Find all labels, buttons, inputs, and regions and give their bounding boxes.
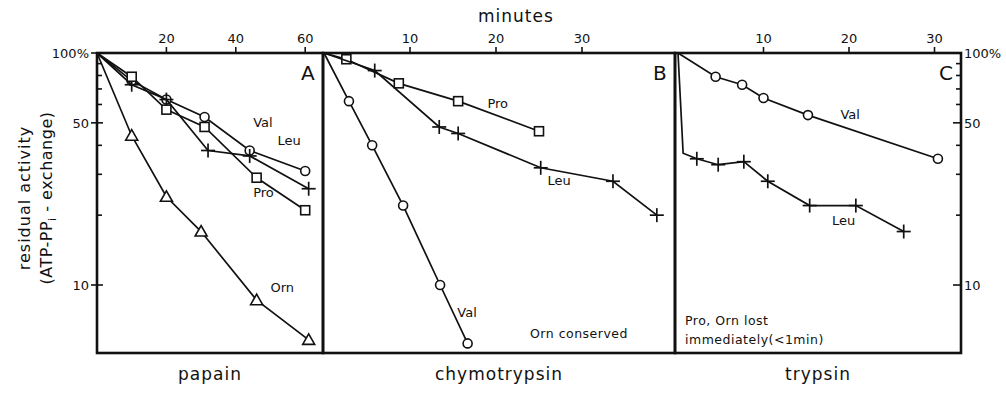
y-tick-label-right: 10 xyxy=(964,278,981,293)
data-point-triangle xyxy=(303,334,315,345)
data-point-circle xyxy=(759,93,768,102)
data-point-circle xyxy=(368,141,377,150)
chart-canvas: minutes residual activity (ATP-PPi - exc… xyxy=(0,0,1006,396)
x-tick-label: 20 xyxy=(841,31,858,46)
data-point-circle xyxy=(738,80,747,89)
y-axis-title-line1: residual activity xyxy=(15,126,34,270)
panel-c: C102030100%5010ValLeuPro, Orn lostimmedi… xyxy=(675,31,1001,384)
data-point-circle xyxy=(344,97,353,106)
panels: A204060100%5010ValLeuProOrnpapainB102030… xyxy=(52,31,1001,384)
panel-a: A204060100%5010ValLeuProOrnpapain xyxy=(52,31,323,384)
panel-letter: A xyxy=(301,61,315,85)
series-orn: Orn xyxy=(97,53,315,344)
panel-frame xyxy=(675,53,961,353)
series-label: Pro xyxy=(253,185,274,200)
fit-line xyxy=(97,53,305,171)
data-point-triangle xyxy=(126,130,138,141)
series-pro: Pro xyxy=(324,53,544,136)
series-label: Pro xyxy=(487,96,508,111)
panel-enzyme-title: papain xyxy=(178,364,242,384)
y-tick-label-right: 50 xyxy=(964,116,981,131)
data-point-square xyxy=(301,206,310,215)
data-point-square xyxy=(535,127,544,136)
x-tick-label: 20 xyxy=(158,31,175,46)
series-val: Val xyxy=(97,53,310,176)
y-axis-title-line2: (ATP-PPi - exchange) xyxy=(37,112,59,285)
series-label: Val xyxy=(253,115,272,130)
panel-frame xyxy=(97,53,323,353)
data-point-circle xyxy=(711,72,720,81)
x-tick-label: 30 xyxy=(574,31,591,46)
panel-enzyme-title: chymotrypsin xyxy=(435,364,563,384)
data-point-square xyxy=(454,97,463,106)
y-tick-label-right: 100% xyxy=(964,46,1001,61)
y-tick-label: 50 xyxy=(72,116,89,131)
series-label: Leu xyxy=(548,173,571,188)
y-axis-title: residual activity (ATP-PPi - exchange) xyxy=(15,112,59,285)
x-tick-label: 40 xyxy=(228,31,245,46)
series-label: Leu xyxy=(277,133,300,148)
data-point-circle xyxy=(463,339,472,348)
panel-enzyme-title: trypsin xyxy=(785,364,851,384)
panel-annotation: immediately(<1min) xyxy=(685,332,824,347)
data-point-square xyxy=(200,122,209,131)
data-point-circle xyxy=(301,167,310,176)
data-point-circle xyxy=(399,201,408,210)
fit-line xyxy=(678,53,938,159)
data-point-circle xyxy=(200,112,209,121)
data-point-circle xyxy=(803,111,812,120)
panel-letter: B xyxy=(653,61,667,85)
top-axis-title: minutes xyxy=(478,6,554,26)
x-tick-label: 20 xyxy=(488,31,505,46)
x-tick-label: 10 xyxy=(755,31,772,46)
data-point-square xyxy=(162,105,171,114)
series-leu: Leu xyxy=(324,53,664,222)
y-tick-label: 10 xyxy=(72,278,89,293)
data-point-circle xyxy=(933,154,942,163)
fit-line xyxy=(97,53,309,340)
fit-line xyxy=(324,53,468,343)
panel-annotation: Pro, Orn lost xyxy=(685,313,768,328)
panel-b: B102030ProLeuValOrn conservedchymotrypsi… xyxy=(323,31,675,384)
x-tick-label: 30 xyxy=(926,31,943,46)
data-point-triangle xyxy=(160,191,172,202)
series-label: Val xyxy=(457,305,476,320)
x-tick-label: 10 xyxy=(402,31,419,46)
x-tick-label: 60 xyxy=(297,31,314,46)
panel-letter: C xyxy=(939,61,953,85)
figure: minutes minutes residual activity (ATP-P… xyxy=(0,0,1006,396)
y-tick-label: 100% xyxy=(52,46,89,61)
data-point-square xyxy=(127,72,136,81)
series-label: Leu xyxy=(832,213,855,228)
series-val: Val xyxy=(678,53,942,163)
data-point-square xyxy=(252,173,261,182)
series-label: Orn xyxy=(271,280,295,295)
series-label: Val xyxy=(840,107,859,122)
data-point-square xyxy=(394,79,403,88)
panel-annotation: Orn conserved xyxy=(530,326,628,341)
data-point-circle xyxy=(436,281,445,290)
